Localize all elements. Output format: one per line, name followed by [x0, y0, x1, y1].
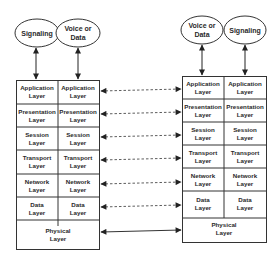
osi-stack-diagram: Signaling Voice or Data Application Laye…	[0, 0, 279, 255]
svg-text:Application: Application	[61, 84, 95, 91]
svg-text:Transport: Transport	[64, 154, 93, 161]
network-peer-arrow	[101, 182, 181, 184]
svg-text:Presentation: Presentation	[18, 108, 56, 115]
svg-text:Network: Network	[233, 172, 258, 179]
svg-text:Layer: Layer	[29, 116, 46, 123]
svg-text:Layer: Layer	[237, 157, 254, 164]
svg-text:Data: Data	[196, 196, 210, 203]
svg-text:Network: Network	[191, 172, 216, 179]
svg-text:Layer: Layer	[195, 180, 212, 187]
presentation-peer-arrow	[101, 112, 181, 114]
svg-text:Data: Data	[238, 196, 252, 203]
svg-text:Session: Session	[233, 126, 257, 133]
svg-text:Layer: Layer	[29, 92, 46, 99]
right-oval-voice-data: Voice or Data	[181, 16, 223, 44]
session-peer-arrow	[101, 135, 181, 137]
svg-text:Layer: Layer	[70, 92, 87, 99]
svg-text:Application: Application	[20, 84, 54, 91]
svg-text:Layer: Layer	[195, 157, 212, 164]
svg-text:Layer: Layer	[70, 139, 87, 146]
svg-text:Physical: Physical	[211, 221, 236, 228]
svg-text:Layer: Layer	[29, 209, 46, 216]
svg-text:Session: Session	[25, 131, 49, 138]
svg-text:Presentation: Presentation	[59, 108, 97, 115]
svg-text:Data: Data	[71, 201, 85, 208]
oval-label-line1: Voice or	[188, 22, 215, 29]
svg-text:Network: Network	[25, 178, 50, 185]
svg-text:Layer: Layer	[29, 162, 46, 169]
svg-text:Layer: Layer	[29, 186, 46, 193]
svg-text:Data: Data	[30, 201, 44, 208]
physical-link-arrow	[101, 230, 181, 232]
svg-text:Layer: Layer	[195, 111, 212, 118]
svg-text:Layer: Layer	[237, 88, 254, 95]
oval-label-line2: Data	[194, 31, 209, 38]
svg-text:Layer: Layer	[29, 139, 46, 146]
svg-text:Application: Application	[228, 80, 262, 87]
svg-text:Layer: Layer	[237, 180, 254, 187]
svg-text:Presentation: Presentation	[184, 103, 222, 110]
svg-text:Session: Session	[66, 131, 90, 138]
svg-text:Layer: Layer	[237, 111, 254, 118]
svg-text:Session: Session	[191, 126, 215, 133]
svg-text:Application: Application	[186, 80, 220, 87]
svg-text:Layer: Layer	[70, 186, 87, 193]
oval-label-line2: Data	[70, 34, 85, 41]
svg-text:Layer: Layer	[195, 134, 212, 141]
oval-label: Signaling	[229, 27, 261, 35]
data-link-peer-arrow	[101, 205, 181, 207]
svg-text:Physical: Physical	[45, 227, 70, 234]
svg-text:Layer: Layer	[50, 235, 67, 242]
svg-text:Layer: Layer	[70, 162, 87, 169]
transport-peer-arrow	[101, 158, 181, 160]
application-peer-arrow	[101, 89, 181, 91]
oval-label: Signaling	[21, 30, 53, 38]
left-oval-signaling: Signaling	[15, 19, 59, 47]
svg-text:Transport: Transport	[231, 149, 260, 156]
svg-text:Transport: Transport	[189, 149, 218, 156]
svg-text:Layer: Layer	[237, 134, 254, 141]
svg-text:Network: Network	[66, 178, 91, 185]
svg-text:Presentation: Presentation	[226, 103, 264, 110]
svg-text:Layer: Layer	[195, 88, 212, 95]
svg-text:Transport: Transport	[23, 154, 52, 161]
svg-text:Layer: Layer	[195, 204, 212, 211]
left-oval-voice-data: Voice or Data	[56, 19, 100, 47]
svg-text:Layer: Layer	[70, 116, 87, 123]
right-stack: Voice or Data Signaling Application Laye…	[181, 16, 267, 243]
oval-label-line1: Voice or	[64, 25, 91, 32]
svg-text:Layer: Layer	[70, 209, 87, 216]
svg-text:Layer: Layer	[237, 204, 254, 211]
right-oval-signaling: Signaling	[224, 16, 266, 44]
left-stack: Signaling Voice or Data Application Laye…	[15, 19, 100, 250]
svg-text:Layer: Layer	[216, 229, 233, 236]
peer-connections	[101, 89, 181, 232]
